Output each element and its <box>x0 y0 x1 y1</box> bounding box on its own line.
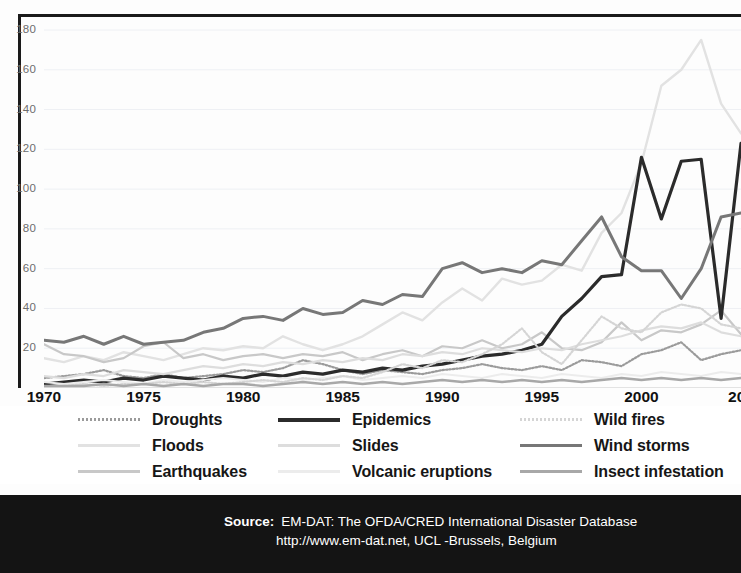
x-tick-1990: 1990 <box>407 388 477 406</box>
series-line-wind-storms <box>44 213 741 344</box>
plot-area <box>44 22 741 388</box>
legend-swatch-icon <box>278 418 340 422</box>
frame-top-border <box>18 14 741 17</box>
legend-column-2: EpidemicsSlidesVolcanic eruptions <box>278 406 492 484</box>
legend-swatch-icon <box>520 418 582 421</box>
legend-item-droughts[interactable]: Droughts <box>78 406 247 432</box>
legend-item-epidemics[interactable]: Epidemics <box>278 406 492 432</box>
legend-swatch-icon <box>520 444 582 447</box>
legend-label: Wind storms <box>594 433 690 459</box>
y-tick-140: 140 <box>6 103 36 115</box>
x-tick-1975: 1975 <box>109 388 179 406</box>
x-tick-1980: 1980 <box>208 388 278 406</box>
grid-lines <box>44 30 741 388</box>
source-bar: Source:EM-DAT: The OFDA/CRED Internation… <box>0 495 741 573</box>
source-url: http://www.em-dat.net, UCL -Brussels, Be… <box>276 533 557 548</box>
legend-label: Droughts <box>152 407 222 433</box>
legend-swatch-icon <box>278 470 340 473</box>
series-line-floods <box>44 40 741 362</box>
x-tick-1995: 1995 <box>507 388 577 406</box>
y-tick-180: 180 <box>6 23 36 35</box>
x-tick-2005: 200 <box>706 388 741 406</box>
line-chart-svg <box>44 22 741 388</box>
legend-column-3: Wild firesWind stormsInsect infestation <box>520 406 724 484</box>
source-text-block: Source:EM-DAT: The OFDA/CRED Internation… <box>224 512 724 550</box>
y-tick-20: 20 <box>6 341 36 353</box>
disaster-trend-figure: 20406080100120140160180 1970197519801985… <box>0 0 741 573</box>
legend-swatch-icon <box>520 470 582 473</box>
legend-swatch-icon <box>78 470 140 473</box>
legend-swatch-icon <box>278 444 340 447</box>
legend-label: Insect infestation <box>594 459 724 485</box>
legend-label: Slides <box>352 433 399 459</box>
chart-legend: DroughtsFloodsEarthquakesEpidemicsSlides… <box>0 406 741 484</box>
y-tick-160: 160 <box>6 63 36 75</box>
y-tick-80: 80 <box>6 222 36 234</box>
x-tick-2000: 2000 <box>606 388 676 406</box>
legend-label: Epidemics <box>352 407 431 433</box>
legend-item-wild-fires[interactable]: Wild fires <box>520 406 724 432</box>
source-line-1: Source:EM-DAT: The OFDA/CRED Internation… <box>224 512 724 531</box>
x-tick-1985: 1985 <box>308 388 378 406</box>
legend-swatch-icon <box>78 418 140 421</box>
legend-item-slides[interactable]: Slides <box>278 432 492 458</box>
legend-item-earthquakes[interactable]: Earthquakes <box>78 458 247 484</box>
y-tick-60: 60 <box>6 262 36 274</box>
legend-label: Floods <box>152 433 204 459</box>
x-tick-1970: 1970 <box>9 388 79 406</box>
legend-label: Wild fires <box>594 407 665 433</box>
legend-item-volcanic-eruptions[interactable]: Volcanic eruptions <box>278 458 492 484</box>
legend-swatch-icon <box>78 444 140 447</box>
series-lines <box>44 40 741 386</box>
source-line-2: http://www.em-dat.net, UCL -Brussels, Be… <box>224 531 724 550</box>
source-database-name: EM-DAT: The OFDA/CRED International Disa… <box>281 514 637 529</box>
legend-item-wind-storms[interactable]: Wind storms <box>520 432 724 458</box>
legend-column-1: DroughtsFloodsEarthquakes <box>78 406 247 484</box>
legend-item-insect-infestation[interactable]: Insect infestation <box>520 458 724 484</box>
legend-item-floods[interactable]: Floods <box>78 432 247 458</box>
legend-label: Earthquakes <box>152 459 247 485</box>
legend-label: Volcanic eruptions <box>352 459 492 485</box>
y-tick-100: 100 <box>6 182 36 194</box>
y-tick-120: 120 <box>6 142 36 154</box>
y-tick-40: 40 <box>6 301 36 313</box>
source-label: Source: <box>224 514 274 529</box>
